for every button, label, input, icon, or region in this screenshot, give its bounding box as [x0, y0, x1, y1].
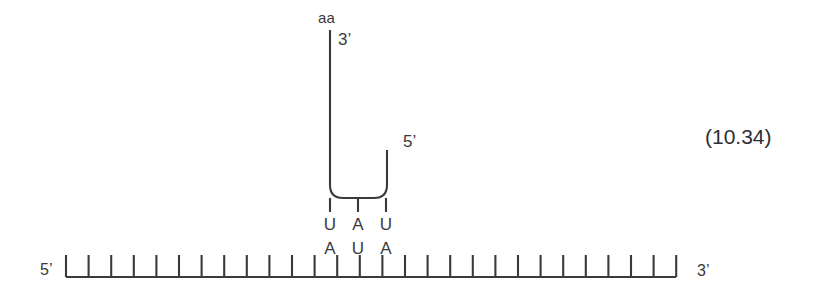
mrna-nucleotide-ticks — [66, 255, 676, 277]
codon-base-2: U — [348, 240, 368, 257]
trna-molecule — [330, 30, 387, 212]
equation-number: (10.34) — [705, 126, 772, 147]
anticodon-base-3: U — [376, 216, 396, 233]
trna-backbone-path — [330, 30, 387, 198]
amino-acid-label: aa — [318, 10, 335, 25]
anticodon-base-2: A — [348, 216, 368, 233]
mrna-5prime-label: 5’ — [40, 262, 52, 278]
trna-mrna-diagram — [0, 0, 828, 303]
anticodon-base-1: U — [320, 216, 340, 233]
codon-base-1: A — [320, 240, 340, 257]
mrna-strand — [66, 255, 676, 277]
codon-base-3: A — [376, 240, 396, 257]
trna-5prime-label: 5’ — [403, 133, 416, 150]
trna-3prime-label: 3’ — [338, 31, 351, 48]
figure-container: aa 3’ 5’ 5’ 3’ (10.34) U A U A U A — [0, 0, 828, 303]
mrna-3prime-label: 3’ — [697, 263, 709, 279]
